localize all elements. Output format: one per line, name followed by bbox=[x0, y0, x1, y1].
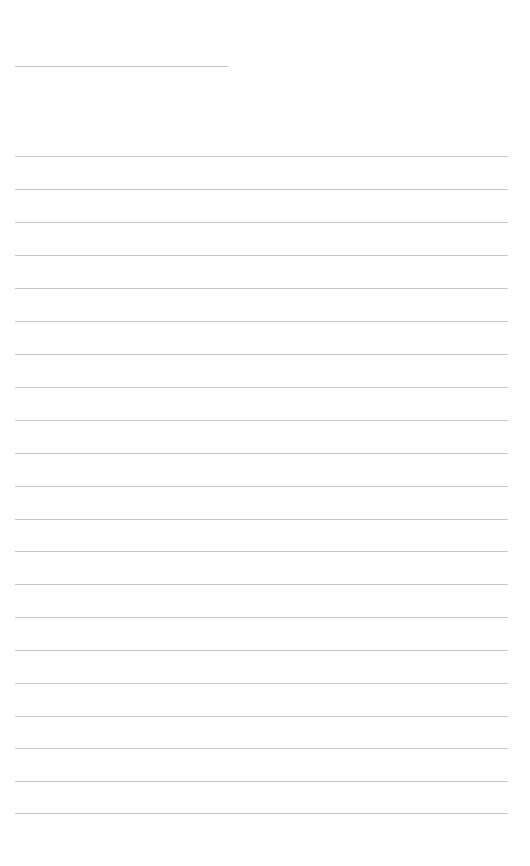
ruled-line bbox=[15, 354, 508, 355]
lined-page bbox=[0, 0, 530, 866]
ruled-line bbox=[15, 321, 508, 322]
ruled-line bbox=[15, 617, 508, 618]
ruled-line bbox=[15, 813, 508, 814]
ruled-line bbox=[15, 584, 508, 585]
ruled-line bbox=[15, 453, 508, 454]
ruled-line bbox=[15, 222, 508, 223]
ruled-line bbox=[15, 519, 508, 520]
ruled-line bbox=[15, 551, 508, 552]
ruled-line bbox=[15, 716, 508, 717]
title-line bbox=[15, 66, 228, 67]
ruled-line bbox=[15, 781, 508, 782]
ruled-line bbox=[15, 156, 508, 157]
ruled-line bbox=[15, 288, 508, 289]
ruled-line bbox=[15, 420, 508, 421]
ruled-line bbox=[15, 486, 508, 487]
ruled-line bbox=[15, 255, 508, 256]
ruled-line bbox=[15, 387, 508, 388]
ruled-line bbox=[15, 683, 508, 684]
ruled-line bbox=[15, 189, 508, 190]
ruled-line bbox=[15, 748, 508, 749]
ruled-line bbox=[15, 650, 508, 651]
